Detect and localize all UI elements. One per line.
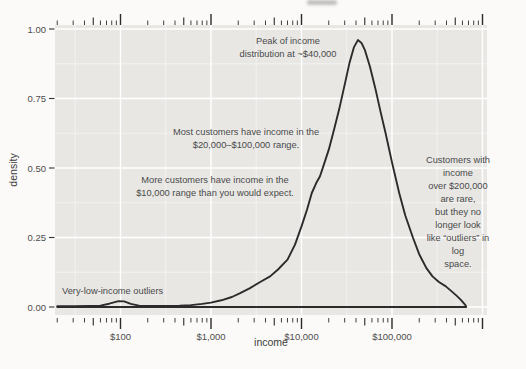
density-plot-canvas xyxy=(0,0,526,369)
density-plot-figure: 0.000.250.500.751.00 $100$1,000$10,000$1… xyxy=(0,0,526,369)
y-axis-tick-marks xyxy=(49,29,55,307)
